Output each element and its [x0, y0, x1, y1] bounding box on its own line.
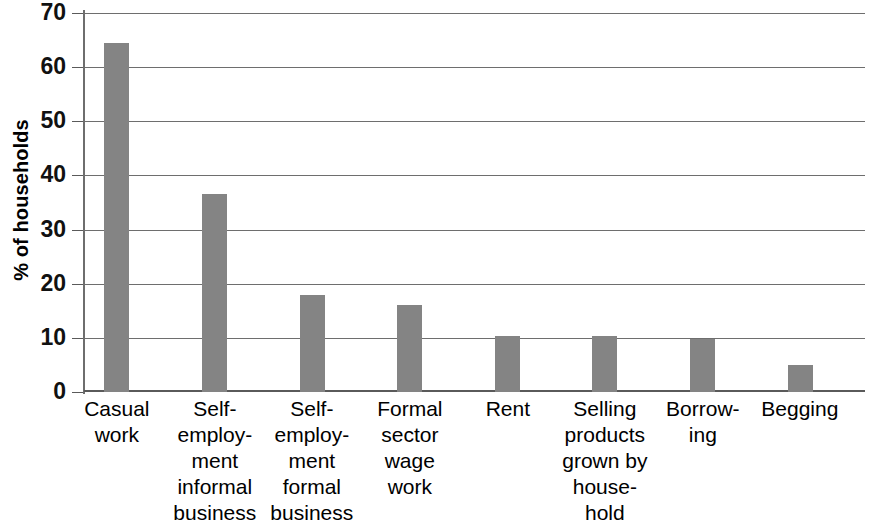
bar: [397, 305, 422, 392]
y-axis-tick-label: 10: [20, 326, 66, 349]
x-axis-category-label: Formal sector wage work: [354, 396, 466, 500]
x-axis-category-label: Self- employ- ment informal business: [159, 396, 271, 526]
x-axis-category-label: Casual work: [61, 396, 173, 448]
y-axis-tick-label: 70: [20, 1, 66, 24]
bar: [300, 295, 325, 392]
y-axis-tick-label: 30: [20, 218, 66, 241]
y-axis-tick-label: 0: [20, 380, 66, 403]
x-axis-category-label: Selling products grown by house- hold: [549, 396, 661, 526]
y-axis-tick-label: 40: [20, 163, 66, 186]
bar: [104, 43, 129, 392]
grid-line: [84, 121, 865, 122]
x-axis-category-labels: Casual workSelf- employ- ment informal b…: [84, 396, 865, 528]
grid-line: [84, 175, 865, 176]
x-axis-category-label: Borrow- ing: [647, 396, 759, 448]
x-axis-category-label: Begging: [744, 396, 856, 422]
bar: [788, 365, 813, 392]
x-axis-category-label: Rent: [452, 396, 564, 422]
plot-area: [84, 13, 865, 392]
bar: [690, 339, 715, 392]
bar: [495, 336, 520, 392]
grid-line: [84, 67, 865, 68]
bar: [202, 194, 227, 392]
y-axis-tick-label: 50: [20, 109, 66, 132]
grid-line: [84, 13, 865, 14]
y-axis-tick-label: 60: [20, 55, 66, 78]
bar: [592, 336, 617, 392]
bar-chart: % of households 010203040506070 Casual w…: [0, 0, 873, 528]
x-axis-category-label: Self- employ- ment formal business: [256, 396, 368, 526]
y-axis-tick-label: 20: [20, 272, 66, 295]
